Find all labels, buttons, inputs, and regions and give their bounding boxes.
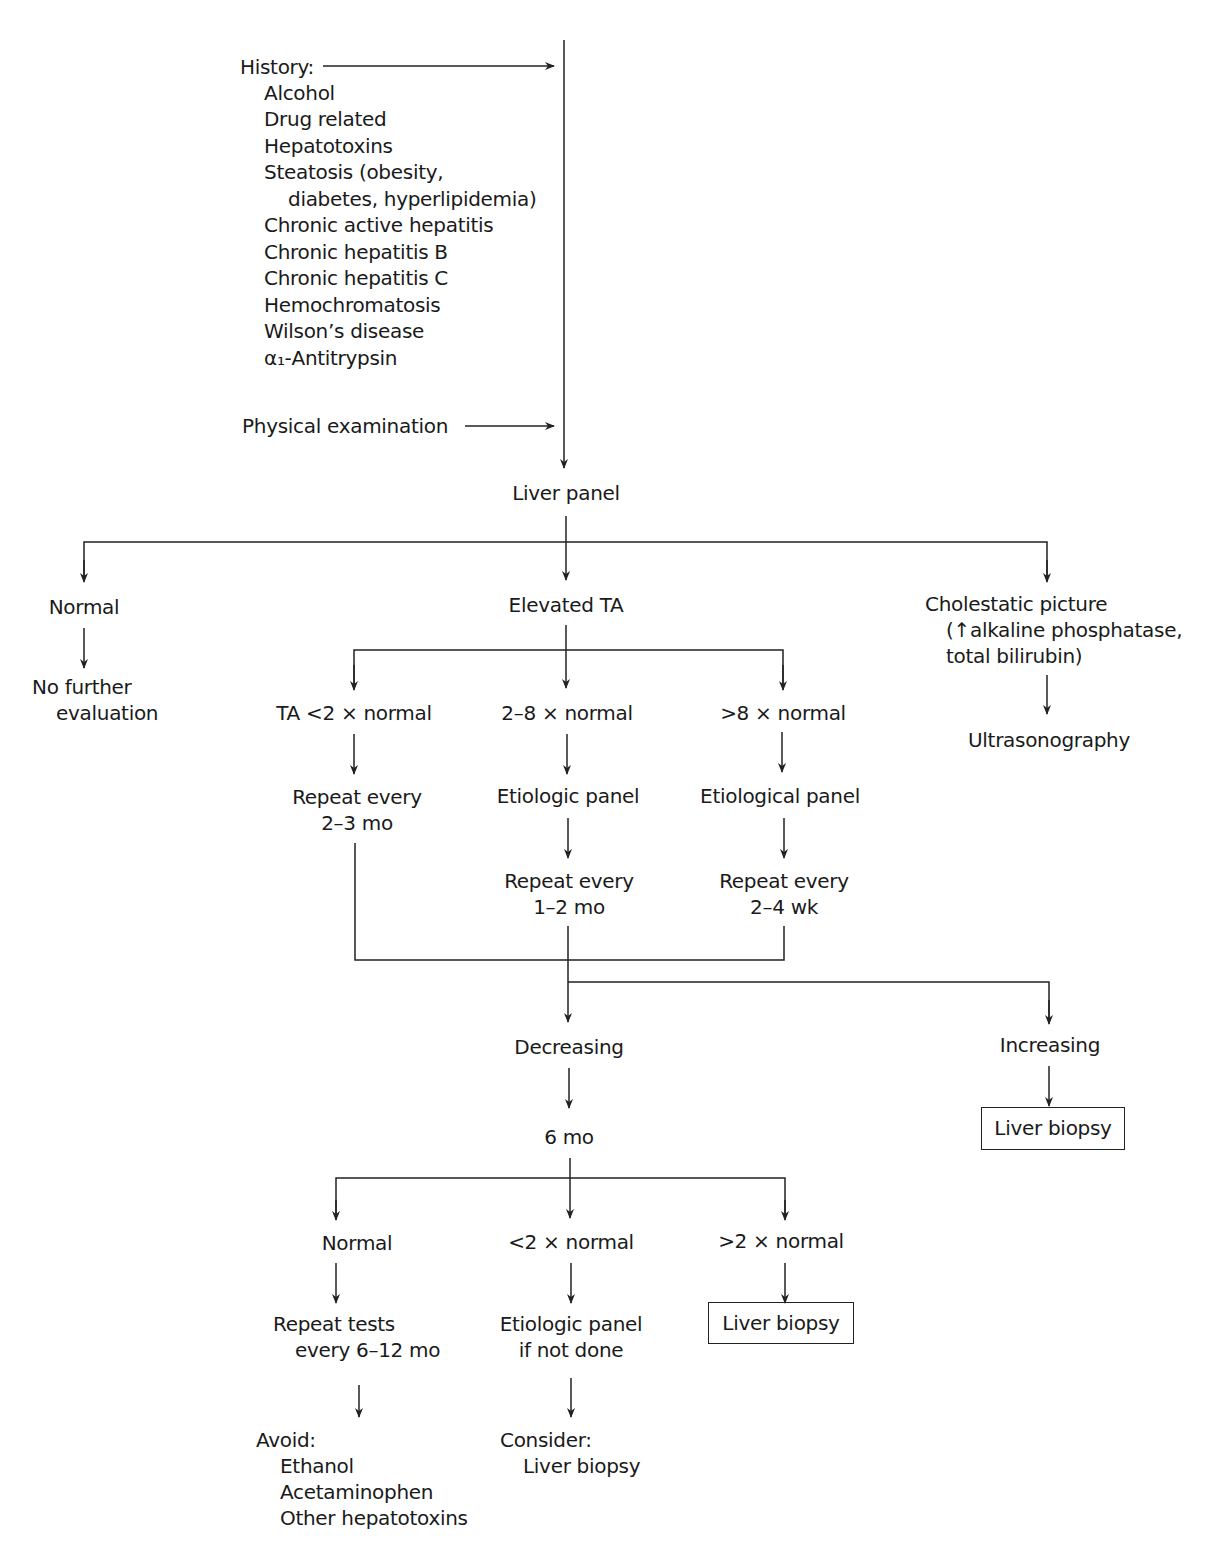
liver-biopsy-box-increasing: Liver biopsy <box>981 1107 1125 1150</box>
six-mo-gt2-node: >2 × normal <box>718 1228 844 1255</box>
repeat-2-3mo-line2: 2–3 mo <box>321 810 393 837</box>
history-item-hep-b: Chronic hepatitis B <box>240 239 448 266</box>
avoid-item-ethanol: Ethanol <box>280 1453 354 1480</box>
ta-gt8-node: >8 × normal <box>720 700 846 727</box>
consider-liver-biopsy: Liver biopsy <box>523 1453 640 1480</box>
etiologic-if-not-done-line1: Etiologic panel <box>500 1311 643 1338</box>
liver-panel-node: Liver panel <box>512 480 620 507</box>
cholestatic-line2: (↑alkaline phosphatase, <box>946 617 1182 644</box>
repeat-2-3mo-line1: Repeat every <box>292 784 422 811</box>
etiologic-if-not-done-line2: if not done <box>519 1337 624 1364</box>
ta-2to8-node: 2–8 × normal <box>501 700 632 727</box>
liver-biopsy-box-gt2: Liver biopsy <box>708 1302 854 1344</box>
history-item-chronic-active: Chronic active hepatitis <box>240 212 493 239</box>
history-item-steatosis-cont: diabetes, hyperlipidemia) <box>240 186 537 213</box>
repeat-2-4wk-line1: Repeat every <box>719 868 849 895</box>
no-further-line1: No further <box>32 674 132 701</box>
ultrasonography-node: Ultrasonography <box>968 727 1130 754</box>
increasing-node: Increasing <box>1000 1032 1100 1059</box>
ta-lt2-node: TA <2 × normal <box>276 700 432 727</box>
no-further-line2: evaluation <box>56 700 158 727</box>
history-item-antitrypsin: α₁-Antitrypsin <box>240 345 397 372</box>
avoid-item-acetaminophen: Acetaminophen <box>280 1479 433 1506</box>
normal-node: Normal <box>49 594 120 621</box>
six-mo-node: 6 mo <box>544 1124 594 1151</box>
avoid-item-other-hepatotoxins: Other hepatotoxins <box>280 1505 468 1532</box>
six-mo-normal-node: Normal <box>322 1230 393 1257</box>
history-item-hemochromatosis: Hemochromatosis <box>240 292 440 319</box>
history-item-alcohol: Alcohol <box>240 80 335 107</box>
history-item-hepatotoxins: Hepatotoxins <box>240 133 393 160</box>
physical-exam-label: Physical examination <box>242 413 448 440</box>
repeat-1-2mo-line2: 1–2 mo <box>533 894 605 921</box>
history-item-wilsons: Wilson’s disease <box>240 318 424 345</box>
repeat-1-2mo-line1: Repeat every <box>504 868 634 895</box>
repeat-tests-line2: every 6–12 mo <box>295 1337 440 1364</box>
history-item-drug-related: Drug related <box>240 106 387 133</box>
repeat-tests-line1: Repeat tests <box>273 1311 395 1338</box>
decreasing-node: Decreasing <box>514 1034 623 1061</box>
repeat-2-4wk-line2: 2–4 wk <box>750 894 818 921</box>
cholestatic-line1: Cholestatic picture <box>925 591 1107 618</box>
history-label: History: <box>240 54 314 81</box>
etiologic-panel-node: Etiologic panel <box>497 783 640 810</box>
avoid-label: Avoid: <box>256 1427 316 1454</box>
history-item-steatosis: Steatosis (obesity, <box>240 159 443 186</box>
etiological-panel-node: Etiological panel <box>700 783 860 810</box>
six-mo-lt2-node: <2 × normal <box>508 1229 634 1256</box>
elevated-ta-node: Elevated TA <box>509 592 624 619</box>
consider-label: Consider: <box>500 1427 592 1454</box>
cholestatic-line3: total bilirubin) <box>946 643 1082 670</box>
history-item-hep-c: Chronic hepatitis C <box>240 265 448 292</box>
